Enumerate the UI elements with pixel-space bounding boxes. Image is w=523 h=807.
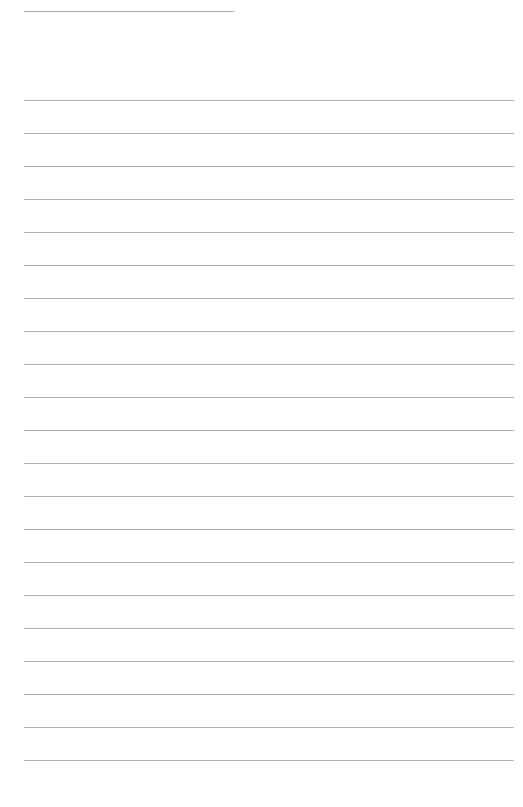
ruled-line bbox=[24, 562, 514, 563]
ruled-line bbox=[24, 595, 514, 596]
ruled-line bbox=[24, 397, 514, 398]
ruled-line bbox=[24, 298, 514, 299]
ruled-line bbox=[24, 364, 514, 365]
ruled-line bbox=[24, 265, 514, 266]
ruled-line bbox=[24, 496, 514, 497]
ruled-line bbox=[24, 100, 514, 101]
ruled-line bbox=[24, 628, 514, 629]
ruled-line bbox=[24, 463, 514, 464]
ruled-line bbox=[24, 661, 514, 662]
ruled-line bbox=[24, 529, 514, 530]
ruled-line bbox=[24, 331, 514, 332]
ruled-line bbox=[24, 133, 514, 134]
ruled-line bbox=[24, 760, 514, 761]
ruled-line bbox=[24, 232, 514, 233]
header-line bbox=[24, 11, 234, 12]
ruled-line bbox=[24, 694, 514, 695]
lined-page bbox=[0, 0, 523, 807]
ruled-line bbox=[24, 430, 514, 431]
ruled-line bbox=[24, 727, 514, 728]
ruled-line bbox=[24, 199, 514, 200]
ruled-line bbox=[24, 166, 514, 167]
